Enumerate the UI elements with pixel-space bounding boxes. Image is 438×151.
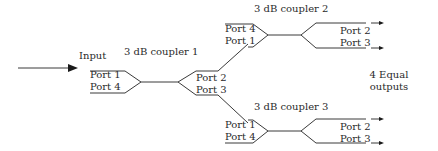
coupler-tree-diagram: Input 3 dB coupler 1 Port 1 Port 4 Port …	[0, 0, 438, 151]
coupler-3-title: 3 dB coupler 3	[254, 101, 328, 112]
coupler-2: 3 dB coupler 2 Port 4 Port 1 Port 2 Port…	[225, 3, 371, 48]
coupler-3-port-left-bottom: Port 4	[225, 131, 256, 142]
coupler-2-port-left-top: Port 4	[225, 23, 256, 34]
input-arrow	[18, 64, 78, 72]
coupler-3-port-right-top: Port 2	[340, 121, 371, 132]
coupler-2-port-right-top: Port 2	[340, 25, 371, 36]
coupler-1-port-left-bottom: Port 4	[90, 81, 121, 92]
input-label: Input	[79, 50, 106, 61]
coupler-1: 3 dB coupler 1 Port 1 Port 4 Port 2 Port…	[90, 44, 248, 123]
coupler-1-port-right-top: Port 2	[196, 72, 227, 83]
outputs-label-line2: outputs	[370, 81, 408, 92]
coupler-3: 3 dB coupler 3 Port 1 Port 4 Port 2 Port…	[225, 101, 371, 144]
coupler-3-port-right-bottom: Port 3	[340, 133, 371, 144]
coupler-2-port-right-bottom: Port 3	[340, 37, 371, 48]
coupler-1-title: 3 dB coupler 1	[124, 46, 198, 57]
coupler-3-port-left-top: Port 1	[225, 119, 256, 130]
outputs-label-line1: 4 Equal	[370, 69, 409, 80]
coupler-1-port-right-bottom: Port 3	[196, 84, 227, 95]
coupler-2-title: 3 dB coupler 2	[254, 3, 328, 14]
coupler-2-port-left-bottom: Port 1	[225, 35, 256, 46]
